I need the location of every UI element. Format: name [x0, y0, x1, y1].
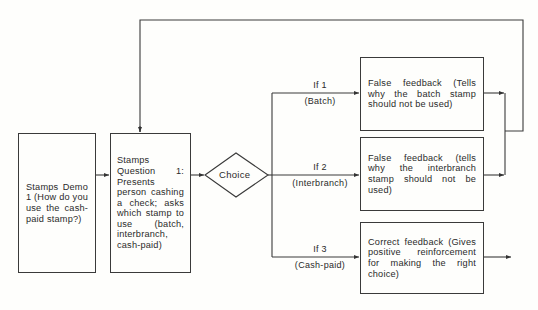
choice-label: Choice	[219, 169, 250, 180]
node-text: False feedback (Tells why the batch stam…	[361, 78, 483, 110]
branch-sublabel-cash-paid: (Cash-paid)	[280, 260, 360, 271]
node-text: Stamps Question 1: Presents person cashi…	[111, 155, 190, 250]
node-stamps-question: Stamps Question 1: Presents person cashi…	[110, 133, 191, 273]
branch-sublabel-batch: (Batch)	[280, 96, 360, 107]
branch-label-if1: If 1	[280, 80, 360, 91]
node-text: Stamps Demo 1 (How do you use the cash-p…	[19, 182, 95, 224]
node-text: False feedback (tells why the interbranc…	[361, 153, 483, 195]
node-false-feedback-batch: False feedback (Tells why the batch stam…	[360, 57, 484, 131]
node-false-feedback-interbranch: False feedback (tells why the interbranc…	[360, 137, 484, 211]
branch-sublabel-interbranch: (Interbranch)	[280, 178, 360, 189]
node-text: Correct feedback (Gives positive reinfor…	[361, 237, 483, 279]
node-stamps-demo: Stamps Demo 1 (How do you use the cash-p…	[18, 133, 96, 273]
node-correct-feedback: Correct feedback (Gives positive reinfor…	[360, 222, 484, 294]
branch-label-if3: If 3	[280, 244, 360, 255]
branch-label-if2: If 2	[280, 162, 360, 173]
